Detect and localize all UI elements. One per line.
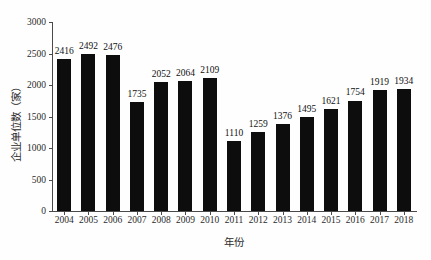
bar[interactable] [373,90,387,211]
bar[interactable] [276,124,290,211]
bar-value-label: 2109 [193,66,227,76]
bar[interactable] [178,81,192,211]
bar-value-label: 1110 [217,129,251,139]
bar[interactable] [300,117,314,211]
bar[interactable] [81,54,95,211]
x-tick-label: 2018 [387,216,421,226]
bar[interactable] [348,101,362,212]
bar[interactable] [397,89,411,211]
bar-chart-figure: 企业单位数（家） 050010001500200025003000 241624… [0,0,431,260]
bar[interactable] [57,59,71,211]
x-axis-title: 年份 [52,234,416,249]
x-axis-ticks: 2004200520062007200820092010201120122013… [52,211,417,235]
y-tick-label: 2000 [6,81,46,91]
y-tick-label: 1000 [6,144,46,154]
plot-area: 050010001500200025003000 241624922476173… [52,22,416,211]
y-tick-label: 500 [6,176,46,186]
bar[interactable] [203,78,217,211]
bar[interactable] [324,109,338,211]
bar-value-label: 1934 [387,77,421,87]
bar-value-label: 1621 [314,97,348,107]
y-tick-label: 0 [6,207,46,217]
y-tick-label: 1500 [6,113,46,123]
bar-value-label: 1754 [338,88,372,98]
bar[interactable] [130,102,144,211]
bars-layer: 2416249224761735205220642109111012591376… [52,22,416,211]
bar[interactable] [154,82,168,211]
y-tick-label: 2500 [6,50,46,60]
bar[interactable] [227,141,241,211]
y-tick-label: 3000 [6,18,46,28]
bar-value-label: 2476 [96,43,130,53]
bar-value-label: 1735 [120,90,154,100]
bar[interactable] [106,55,120,211]
bar[interactable] [251,132,265,211]
